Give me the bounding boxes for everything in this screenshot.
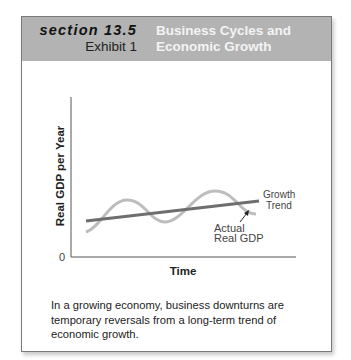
- real-gdp-label: Real GDP: [214, 232, 264, 244]
- growth-trend-line: [86, 201, 259, 221]
- trend-label: Trend: [266, 200, 292, 211]
- business-cycle-chart: 0 Time Real GDP per Year Growth Trend Ac…: [0, 0, 351, 360]
- x-axis-label: Time: [170, 265, 197, 277]
- growth-label: Growth: [263, 189, 295, 200]
- y-axis-label: Real GDP per Year: [54, 125, 66, 226]
- y-origin-label: 0: [59, 251, 65, 263]
